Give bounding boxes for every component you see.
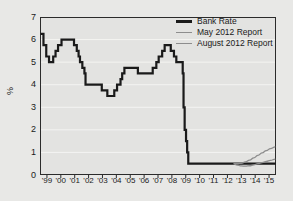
x-tick-label: '05: [125, 177, 135, 185]
x-tick-label: '14: [250, 177, 260, 185]
x-tick-label: '03: [97, 177, 107, 185]
legend-item-may-2012-report: May 2012 Report: [176, 27, 288, 38]
series-line: [41, 34, 276, 164]
legend-label-bank-rate: Bank Rate: [197, 17, 237, 26]
legend-label-august-2012-report: August 2012 Report: [197, 39, 273, 48]
x-tick-label: '09: [181, 177, 191, 185]
x-tick-label: '01: [69, 177, 79, 185]
x-tick-label: '10: [194, 177, 204, 185]
x-tick-label: '02: [83, 177, 93, 185]
x-tick-label: '06: [139, 177, 149, 185]
x-tick-label: '08: [167, 177, 177, 185]
x-tick-label: '04: [111, 177, 121, 185]
legend-item-august-2012-report: August 2012 Report: [176, 38, 288, 49]
x-tick-label: '99: [42, 177, 52, 185]
chart-legend: Bank Rate May 2012 Report August 2012 Re…: [176, 14, 288, 51]
legend-label-may-2012-report: May 2012 Report: [197, 28, 262, 37]
x-tick-label: '15: [264, 177, 274, 185]
legend-swatch-bank-rate-icon: [176, 20, 192, 23]
x-axis-tick-labels: '99'00'01'02'03'04'05'06'07'08'09'10'11'…: [40, 177, 276, 193]
bank-rate-chart: 01234567 % '99'00'01'02'03'04'05'06'07'0…: [0, 0, 293, 201]
legend-swatch-august-2012-icon: [176, 43, 192, 45]
legend-item-bank-rate: Bank Rate: [176, 16, 288, 27]
x-tick-label: '12: [222, 177, 232, 185]
x-tick-label: '00: [56, 177, 66, 185]
legend-swatch-may-2012-icon: [176, 32, 192, 34]
x-tick-label: '13: [236, 177, 246, 185]
x-tick-label: '11: [209, 177, 219, 185]
data-series-layer: [41, 34, 276, 166]
x-tick-label: '07: [153, 177, 163, 185]
